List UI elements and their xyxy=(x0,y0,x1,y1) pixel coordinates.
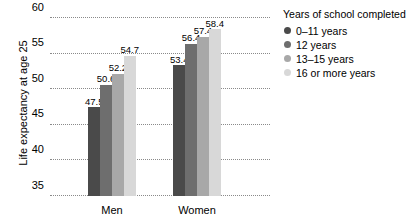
legend-item[interactable]: 13–15 years xyxy=(283,52,413,65)
bar: 52.2 xyxy=(112,74,124,196)
legend-title: Years of school completed xyxy=(283,8,413,20)
legend: Years of school completed 0–11 years12 y… xyxy=(283,8,413,79)
legend-item-label: 13–15 years xyxy=(296,53,354,65)
legend-item-label: 16 or more years xyxy=(296,67,375,79)
bar: 54.7 xyxy=(124,56,136,196)
bar: 57.4 xyxy=(197,37,209,196)
life-expectancy-bar-chart: Life expectancy at age 25 354045505560 4… xyxy=(0,0,415,223)
legend-swatch-circle-icon xyxy=(284,55,291,62)
legend-swatch-circle-icon xyxy=(284,69,291,76)
legend-item[interactable]: 12 years xyxy=(283,38,413,51)
legend-item-label: 0–11 years xyxy=(296,25,347,37)
gridline-40 xyxy=(50,159,270,160)
x-tick-label-men: Men xyxy=(101,204,122,216)
bar: 47.5 xyxy=(88,107,100,196)
y-tick-label: 60 xyxy=(32,1,44,13)
y-axis-title: Life expectancy at age 25 xyxy=(17,8,29,198)
bar: 50.6 xyxy=(100,85,112,196)
y-tick-label: 40 xyxy=(32,143,44,155)
legend-item-label: 12 years xyxy=(296,39,336,51)
y-tick-label: 55 xyxy=(32,36,44,48)
gridline-55 xyxy=(50,53,270,54)
bar: 56.4 xyxy=(185,44,197,196)
legend-item[interactable]: 0–11 years xyxy=(283,24,413,37)
legend-item[interactable]: 16 or more years xyxy=(283,66,413,79)
legend-swatch-circle-icon xyxy=(284,41,291,48)
bar: 53.4 xyxy=(173,65,185,196)
y-tick-label: 45 xyxy=(32,107,44,119)
bar-value-label: 54.7 xyxy=(120,45,139,55)
gridline-60 xyxy=(50,17,270,18)
x-tick-label-women: Women xyxy=(178,204,216,216)
bar-value-label: 58.4 xyxy=(205,19,224,29)
plot-area: 354045505560 47.550.652.254.753.456.457.… xyxy=(50,18,270,196)
gridline-35 xyxy=(50,195,270,196)
legend-swatch-circle-icon xyxy=(284,27,291,34)
gridline-50 xyxy=(50,88,270,89)
bar-group-women: 53.456.457.458.4 xyxy=(173,18,220,196)
y-tick-label: 50 xyxy=(32,72,44,84)
gridline-45 xyxy=(50,124,270,125)
legend-items: 0–11 years12 years13–15 years16 or more … xyxy=(283,24,413,79)
y-tick-label: 35 xyxy=(32,179,44,191)
bar-group-men: 47.550.652.254.7 xyxy=(88,18,135,196)
bar: 58.4 xyxy=(209,29,221,196)
